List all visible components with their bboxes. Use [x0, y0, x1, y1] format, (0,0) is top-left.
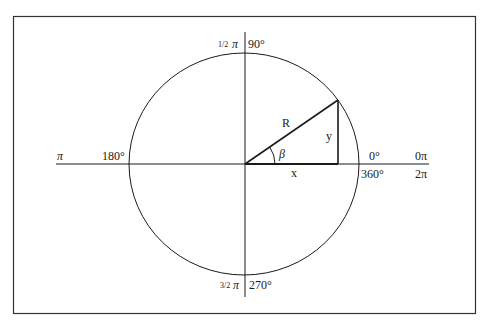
- adjacent-label: x: [291, 166, 297, 180]
- left-pi-label: π: [57, 149, 64, 163]
- bottom-degree-label: 270°: [249, 278, 272, 292]
- top-degree-label: 90°: [248, 37, 265, 51]
- angle-arc: [270, 147, 275, 164]
- right-360-degree-label: 360°: [361, 167, 384, 181]
- opposite-label: y: [326, 129, 332, 143]
- radius-label: R: [282, 116, 290, 130]
- unit-circle-diagram: 1/2 π 90° 3/2 π 270° π 180° 0° 0π 360° 2…: [0, 0, 489, 326]
- angle-label: β: [278, 147, 285, 161]
- radius-line: [245, 100, 338, 164]
- top-pi-label: π: [232, 37, 239, 51]
- right-zero-pi-label: 0π: [415, 149, 427, 163]
- right-two-pi-label: 2π: [415, 167, 427, 181]
- left-degree-label: 180°: [102, 149, 125, 163]
- right-zero-degree-label: 0°: [369, 149, 380, 163]
- bottom-fraction-label: 3/2: [220, 281, 230, 290]
- bottom-pi-label: π: [233, 278, 240, 292]
- top-fraction-label: 1/2: [218, 40, 228, 49]
